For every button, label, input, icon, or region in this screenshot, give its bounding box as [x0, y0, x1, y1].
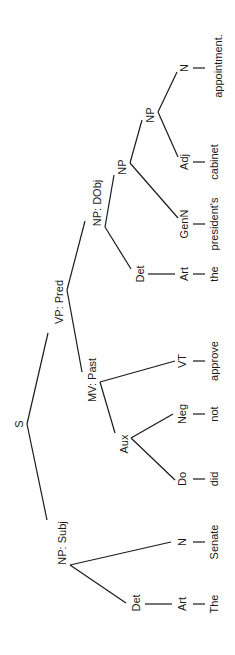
word-presidents: president's	[209, 198, 220, 251]
node-do: Do	[177, 472, 188, 486]
node-vp-pred: VP: Pred	[54, 280, 65, 324]
node-np-inner1: NP	[117, 159, 128, 174]
node-np-inner2: NP	[145, 107, 156, 122]
node-s: S	[14, 420, 25, 427]
word-cabinet: cabinet	[209, 144, 220, 179]
node-art-subj: Art	[177, 597, 188, 611]
tree-branches	[0, 0, 235, 655]
node-aux: Aux	[119, 435, 130, 454]
word-did: did	[209, 472, 220, 487]
word-appointment: appointment.	[213, 34, 224, 98]
node-vt: VT	[177, 354, 188, 368]
word-the: the	[209, 266, 220, 281]
word-not: not	[209, 406, 220, 421]
node-n-subj: N	[177, 538, 188, 546]
node-neg: Neg	[177, 404, 188, 424]
node-np-dobj: NP: DObj	[92, 180, 103, 226]
node-mv-past: MV: Past	[87, 358, 98, 402]
node-det-obj: Det	[135, 265, 146, 282]
word-senate: Senate	[209, 525, 220, 560]
node-np-subj: NP: Subj	[57, 521, 68, 564]
node-genn: GenN	[179, 210, 190, 239]
node-det-subj: Det	[131, 594, 142, 611]
word-the-cap: The	[209, 595, 220, 614]
node-art-obj: Art	[179, 267, 190, 281]
syntax-tree-diagram: S NP: Subj VP: Pred Det Art The N Senate…	[0, 0, 235, 655]
word-approve: approve	[209, 341, 220, 381]
node-adj: Adj	[179, 154, 190, 170]
node-n-obj: N	[179, 64, 190, 72]
